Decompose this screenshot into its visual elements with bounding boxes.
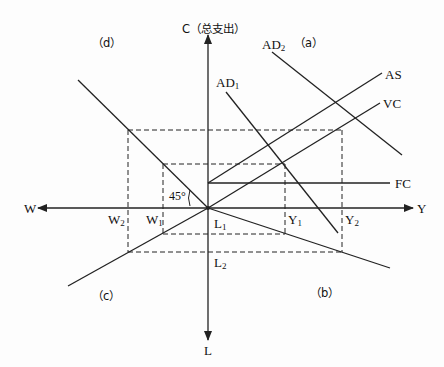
line-45-degree [78, 80, 208, 208]
l-axis-label: L [204, 344, 212, 357]
fc-label: FC [395, 177, 411, 190]
ad2-label: AD2 [262, 38, 285, 53]
ad1-label: AD1 [216, 76, 239, 91]
l2-marker: L2 [214, 256, 226, 271]
origin-point [206, 206, 210, 210]
w-axis-label: W [24, 202, 36, 215]
ad1-line [226, 92, 338, 233]
as-label: AS [385, 68, 402, 81]
w2-marker: W2 [108, 213, 125, 228]
l1-marker: L1 [214, 217, 226, 232]
quadrant-c-line [68, 208, 208, 286]
quadrant-a-label: （a） [294, 38, 323, 50]
vc-line [208, 103, 380, 208]
vc-label: VC [383, 97, 401, 110]
y-axis-label: Y [417, 202, 426, 215]
quadrant-b-label: （b） [310, 288, 339, 300]
c-axis-label: C（总支出） [182, 22, 245, 36]
quadrant-d-label: （d） [92, 38, 121, 50]
four-quadrant-diagram: C（总支出） Y W L （a） （b） （c） （d） AD2 AD1 AS … [0, 0, 444, 367]
y2-marker: Y2 [345, 213, 359, 228]
diagram-canvas [0, 0, 444, 367]
quadrant-c-label: （c） [92, 291, 120, 303]
y1-marker: Y1 [288, 213, 302, 228]
angle-arc [189, 190, 191, 206]
w1-marker: W1 [146, 213, 163, 228]
angle-45-label: 45° [169, 190, 186, 202]
